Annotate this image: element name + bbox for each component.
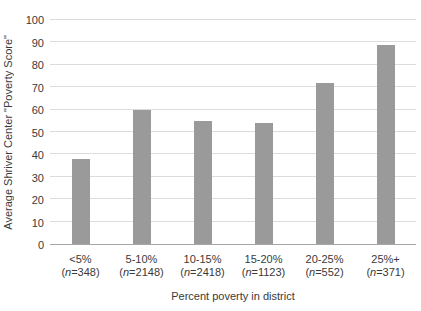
- x-tick-category: 5-10%: [111, 253, 172, 266]
- x-tick-label: 20-25%(n=552): [294, 253, 355, 279]
- y-tick-label: 0: [38, 240, 44, 251]
- x-tick-label: 15-20%(n=1123): [233, 253, 294, 279]
- y-tick-label: 90: [32, 37, 44, 48]
- x-tick-category: 25%+: [355, 253, 416, 266]
- x-axis-ticks: <5%(n=348)5-10%(n=2148)10-15%(n=2418)15-…: [50, 253, 416, 279]
- bar-15-20%: [255, 123, 273, 244]
- bars-container: [50, 20, 416, 244]
- y-tick-label: 10: [32, 217, 44, 228]
- y-axis-ticks: 0102030405060708090100: [10, 20, 44, 245]
- x-tick-count: (n=2418): [172, 266, 233, 279]
- y-tick-label: 20: [32, 195, 44, 206]
- bar-5-10%: [133, 110, 151, 244]
- x-tick-count: (n=348): [50, 266, 111, 279]
- y-tick-label: 50: [32, 127, 44, 138]
- x-tick-label: 25%+(n=371): [355, 253, 416, 279]
- bar-25%+: [377, 45, 395, 244]
- x-tick-label: 10-15%(n=2418): [172, 253, 233, 279]
- bar-slot: [233, 20, 294, 244]
- bar-slot: [172, 20, 233, 244]
- y-tick-label: 100: [26, 15, 44, 26]
- bar-10-15%: [194, 121, 212, 244]
- y-tick-label: 30: [32, 172, 44, 183]
- x-tick-count: (n=1123): [233, 266, 294, 279]
- bar-20-25%: [316, 83, 334, 244]
- bar-chart-figure: Average Shriver Center "Poverty Score" 0…: [0, 0, 421, 311]
- x-tick-label: 5-10%(n=2148): [111, 253, 172, 279]
- bar-<5%: [72, 159, 90, 244]
- x-tick-count: (n=2148): [111, 266, 172, 279]
- x-axis-title: Percent poverty in district: [50, 290, 416, 302]
- bar-slot: [294, 20, 355, 244]
- bar-slot: [111, 20, 172, 244]
- y-tick-label: 80: [32, 60, 44, 71]
- plot-area: [50, 20, 416, 245]
- y-tick-label: 70: [32, 82, 44, 93]
- x-tick-category: 15-20%: [233, 253, 294, 266]
- x-tick-count: (n=371): [355, 266, 416, 279]
- bar-slot: [355, 20, 416, 244]
- bar-slot: [50, 20, 111, 244]
- y-tick-label: 60: [32, 105, 44, 116]
- x-tick-count: (n=552): [294, 266, 355, 279]
- x-tick-category: 10-15%: [172, 253, 233, 266]
- x-tick-category: 20-25%: [294, 253, 355, 266]
- x-tick-category: <5%: [50, 253, 111, 266]
- x-tick-label: <5%(n=348): [50, 253, 111, 279]
- y-tick-label: 40: [32, 150, 44, 161]
